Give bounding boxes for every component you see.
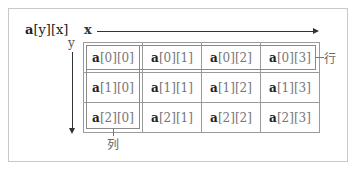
y-axis-arrow-icon bbox=[72, 52, 73, 129]
cell-array-name: a bbox=[269, 111, 277, 125]
cell-array-name: a bbox=[269, 81, 277, 95]
x-axis-label: x bbox=[84, 22, 92, 37]
row-label: 行 bbox=[324, 49, 336, 66]
column-highlight-box bbox=[86, 45, 140, 129]
column-label: 列 bbox=[107, 135, 119, 152]
cell-index: [2][2] bbox=[218, 111, 252, 125]
grid-cell: a[1][2] bbox=[202, 73, 261, 103]
array-notation-title: a[y][x] bbox=[25, 22, 68, 37]
cell-array-name: a bbox=[151, 81, 159, 95]
grid-cell: a[2][2] bbox=[202, 103, 261, 133]
array-index-notation: [y][x] bbox=[33, 22, 68, 37]
cell-array-name: a bbox=[210, 111, 218, 125]
grid-cell: a[2][3] bbox=[261, 103, 320, 133]
row-leader-line bbox=[316, 57, 324, 58]
x-axis-arrow-icon bbox=[97, 31, 315, 32]
grid-cell: a[1][3] bbox=[261, 73, 320, 103]
cell-array-name: a bbox=[151, 111, 159, 125]
cell-array-name: a bbox=[210, 81, 218, 95]
cell-index: [2][3] bbox=[277, 111, 311, 125]
cell-index: [1][1] bbox=[159, 81, 193, 95]
y-axis-label: y bbox=[68, 36, 75, 50]
grid-cell: a[2][1] bbox=[143, 103, 202, 133]
cell-index: [1][2] bbox=[218, 81, 252, 95]
cell-index: [1][3] bbox=[277, 81, 311, 95]
cell-index: [2][1] bbox=[159, 111, 193, 125]
grid-cell: a[1][1] bbox=[143, 73, 202, 103]
